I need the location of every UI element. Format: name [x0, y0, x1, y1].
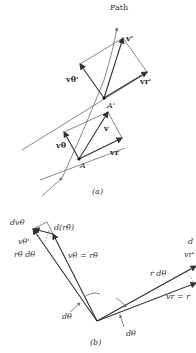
dtheta-pointer-right	[120, 315, 124, 327]
part-b: dvθ d(rθ̇) vθ' rθ̇ dθ vθ = rθ̇ dθ dθ ṙ d…	[10, 218, 196, 347]
dtheta-right-label: dθ	[126, 329, 136, 338]
caption-a: (a)	[92, 187, 103, 196]
v-prime-label: v'	[125, 33, 133, 43]
r-theta-dot-dtheta-label: rθ̇ dθ	[14, 250, 35, 259]
v-r-eq-label: vr = ṙ	[166, 292, 191, 301]
velocity-rect-a-prime	[80, 38, 147, 98]
polar-velocity-diagram: Path A' v' vθ' vr' A v vθ	[0, 0, 196, 353]
incoming-arrow	[42, 178, 62, 196]
v-theta-prime-b-label: vθ'	[18, 237, 30, 246]
d-r-theta-dot-label: d(rθ̇)	[54, 223, 74, 232]
path-label: Path	[110, 3, 128, 12]
point-a-label: A	[79, 161, 86, 170]
dtheta-left-label: dθ	[62, 312, 72, 321]
point-a-prime-label: A'	[106, 101, 115, 110]
v-label: v	[103, 123, 109, 133]
arc-small-b-right	[186, 272, 194, 283]
d-v-theta-label: dvθ	[10, 218, 25, 227]
v-r-label: vr	[109, 147, 120, 157]
d-v-theta-vector	[34, 229, 53, 234]
v-theta-prime-vector	[33, 229, 97, 321]
v-theta-eq-label: vθ = rθ̇	[68, 251, 98, 260]
r-dot-dtheta-label: ṙ dθ	[150, 269, 166, 278]
point-a-prime	[102, 96, 105, 99]
v-r-prime-label: vr'	[139, 76, 151, 86]
dtheta-arc-top-left	[84, 293, 100, 297]
d-v-r-partial-label: d	[188, 237, 193, 246]
part-a: Path A' v' vθ' vr' A v vθ	[22, 3, 151, 196]
caption-b: (b)	[90, 338, 101, 347]
v-theta-prime-label: vθ'	[65, 74, 78, 84]
v-r-vector	[97, 283, 196, 321]
radial-line-a-prime	[22, 72, 148, 150]
v-theta-label: vθ	[55, 140, 67, 150]
v-r-prime-b-label: vr'	[184, 250, 195, 259]
dtheta-pointer-left	[70, 303, 80, 312]
tri-top	[33, 222, 47, 229]
